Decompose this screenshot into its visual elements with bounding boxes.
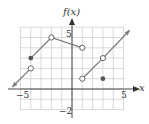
open-point	[49, 35, 54, 40]
open-point	[28, 66, 33, 71]
closed-point	[28, 56, 33, 61]
x-axis-label: x	[139, 83, 145, 93]
open-point	[80, 45, 85, 50]
open-point	[100, 56, 105, 61]
isolated-closed-point	[101, 76, 106, 81]
x-tick-label-5: 5	[121, 91, 127, 100]
open-point	[80, 76, 85, 81]
y-axis-label: f(x)	[63, 7, 80, 17]
y-tick-label-5: 5	[66, 30, 72, 39]
y-axis-arrow-icon	[69, 18, 75, 25]
x-tick-label-neg5: −5	[16, 91, 29, 100]
function-graph	[0, 0, 149, 124]
y-tick-label-neg2: −2	[59, 107, 72, 116]
